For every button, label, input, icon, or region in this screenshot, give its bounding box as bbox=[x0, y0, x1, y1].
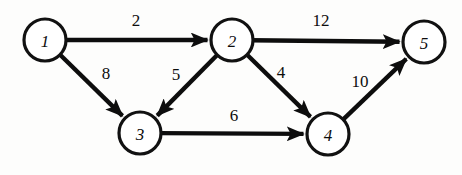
node-label-3: 3 bbox=[135, 125, 145, 144]
graph-diagram-canvas: 12345 285412610 bbox=[0, 0, 462, 175]
graph-edge-n1-to-n3 bbox=[59, 53, 123, 116]
graph-svg: 12345 285412610 bbox=[0, 0, 462, 175]
edge-weight-label-n3-to-n4: 6 bbox=[230, 106, 239, 125]
edge-weight-label-n2-to-n5: 12 bbox=[313, 11, 330, 30]
graph-node-2: 2 bbox=[211, 19, 253, 61]
edge-weight-label-n1-to-n3: 8 bbox=[102, 64, 111, 83]
edge-weight-label-n2-to-n4: 4 bbox=[277, 63, 286, 82]
graph-node-3: 3 bbox=[119, 112, 161, 154]
node-label-2: 2 bbox=[228, 32, 237, 51]
graph-edge-n2-to-n3 bbox=[157, 54, 218, 116]
node-label-5: 5 bbox=[420, 34, 429, 53]
node-label-1: 1 bbox=[41, 32, 50, 51]
graph-node-4: 4 bbox=[307, 113, 349, 155]
edge-weight-label-n1-to-n2: 2 bbox=[132, 11, 141, 30]
graph-node-1: 1 bbox=[24, 19, 66, 61]
graph-node-5: 5 bbox=[403, 21, 445, 63]
node-label-4: 4 bbox=[324, 126, 333, 145]
edge-weight-label-n2-to-n3: 5 bbox=[172, 65, 181, 84]
graph-edge-n3-to-n4 bbox=[159, 133, 304, 134]
graph-edge-n2-to-n5 bbox=[251, 40, 400, 42]
edge-weight-label-n4-to-n5: 10 bbox=[352, 72, 369, 91]
